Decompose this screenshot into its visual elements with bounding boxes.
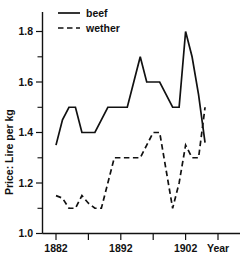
legend-label-wether: wether [85, 22, 120, 34]
y-tick-label-1.2: 1.2 [18, 177, 33, 189]
chart-container: beef wether 1.0 1.2 1.4 1.6 1.8 [0, 0, 248, 258]
x-axis-ticks [56, 234, 218, 241]
y-axis-title: Price: Lire per kg [3, 109, 15, 195]
y-tick-label-1.4: 1.4 [18, 126, 33, 138]
series-line-wether [56, 107, 205, 208]
x-tick-label-1902: 1902 [174, 242, 198, 254]
series-line-beef [56, 32, 205, 146]
y-tick-label-1.6: 1.6 [18, 76, 33, 88]
x-axis-title: Year [207, 242, 229, 254]
y-axis-ticks [36, 32, 43, 234]
y-axis-tick-labels: 1.0 1.2 1.4 1.6 1.8 [18, 25, 33, 239]
y-tick-label-1.0: 1.0 [18, 227, 33, 239]
x-axis-tick-labels: 1882 1892 1902 Year [44, 242, 229, 254]
y-tick-label-1.8: 1.8 [18, 25, 33, 37]
x-tick-label-1892: 1892 [109, 242, 133, 254]
legend-label-beef: beef [86, 7, 108, 19]
chart-legend: beef wether [58, 7, 120, 34]
line-chart: beef wether 1.0 1.2 1.4 1.6 1.8 [0, 0, 248, 258]
x-tick-label-1882: 1882 [44, 242, 68, 254]
